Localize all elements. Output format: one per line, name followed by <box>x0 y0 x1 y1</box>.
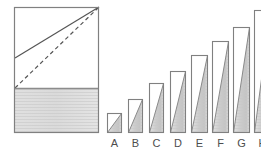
axis-label-a: A <box>111 137 119 149</box>
bar-a[interactable] <box>108 114 122 133</box>
category-axis-labels: ABCDEFGH <box>111 137 261 149</box>
bar-f[interactable] <box>213 42 229 133</box>
bar-d[interactable] <box>171 72 186 133</box>
axis-label-g: G <box>237 137 246 149</box>
shaded-lower-region-texture <box>15 89 99 133</box>
bar-chart-diagram: ABCDEFGH <box>0 0 261 153</box>
bar-e[interactable] <box>192 56 208 133</box>
figure-canvas: ABCDEFGH <box>0 0 261 153</box>
reference-rectangle-group <box>14 7 99 133</box>
bar-g[interactable] <box>234 28 250 133</box>
bar-b[interactable] <box>129 100 143 133</box>
axis-label-e: E <box>196 137 203 149</box>
axis-label-d: D <box>174 137 182 149</box>
bar-series-group <box>108 11 262 133</box>
bar-c[interactable] <box>150 84 164 133</box>
axis-label-h: H <box>259 137 261 149</box>
bar-h[interactable] <box>255 11 262 133</box>
axis-label-b: B <box>132 137 139 149</box>
axis-label-c: C <box>153 137 161 149</box>
axis-label-f: F <box>217 137 224 149</box>
